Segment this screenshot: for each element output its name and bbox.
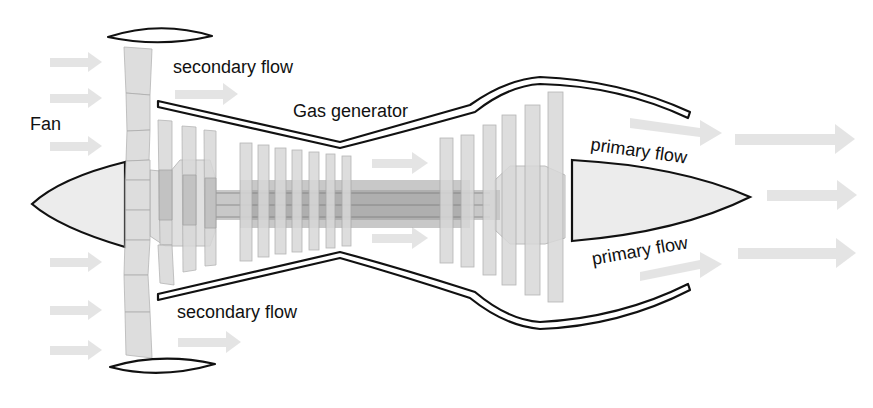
fan-cowl-top — [108, 28, 212, 42]
exhaust-arrow-icon — [738, 238, 856, 268]
bypass-arrow-icon — [178, 331, 241, 353]
fan-label: Fan — [30, 114, 61, 134]
bypass-arrow-icon — [175, 83, 238, 105]
inlet-arrow-icon — [50, 52, 102, 72]
fan-cowl-bottom — [110, 359, 215, 373]
lp-compressor-blades — [158, 120, 216, 285]
secondary-flow-label-bottom: secondary flow — [177, 302, 298, 322]
exhaust-arrow-icon — [767, 180, 857, 210]
inlet-arrow-icon — [50, 340, 102, 360]
fan-blades — [124, 47, 152, 358]
inlet-arrow-icon — [50, 300, 102, 320]
nose-cone — [32, 162, 125, 247]
core-arrow-icon — [372, 152, 428, 174]
inlet-arrow-icon — [50, 252, 102, 272]
inlet-arrow-icon — [50, 136, 102, 156]
exhaust-arrow-icon — [735, 124, 855, 154]
inlet-arrow-icon — [50, 88, 102, 108]
shaft — [210, 180, 500, 228]
exhaust-cone — [572, 160, 750, 241]
gas-generator-label: Gas generator — [293, 101, 408, 121]
core-arrow-icon — [372, 227, 428, 249]
turbofan-diagram: Fan secondary flow Gas generator seconda… — [0, 0, 873, 408]
secondary-flow-label-top: secondary flow — [173, 57, 294, 77]
